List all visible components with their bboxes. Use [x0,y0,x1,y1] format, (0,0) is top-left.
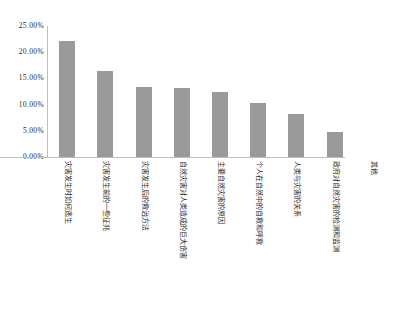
y-axis-tick-label: 15.00% [8,75,44,83]
x-axis-tick-label: 灾害发生时如何逃生 [64,161,71,224]
x-axis-tick-label: 灾害发生前的一些征兆 [102,161,109,231]
bar [327,132,343,157]
x-axis-tick: 人类与灾害的关系 [277,159,315,311]
bar [59,41,75,157]
x-axis-line [0,157,345,158]
bar [250,103,266,157]
x-axis-tick: 灾害发生时如何逃生 [48,159,86,311]
bar [174,88,190,157]
x-axis-tick-label: 个人在自然中的自救和呼救 [255,161,262,245]
x-axis-tick: 灾害发生前的一些征兆 [86,159,124,311]
y-axis-tick-label: 5.00% [8,127,44,135]
bar [97,71,113,157]
bar-chart: 25.00%20.00%15.00%10.00%5.00%0.00% 灾害发生时… [0,0,400,313]
x-axis-tick-label: 自然灾害对人类造成的巨大伤害 [178,161,185,259]
x-axis: 灾害发生时如何逃生灾害发生前的一些征兆灾害发生后的救治方法自然灾害对人类造成的巨… [48,159,392,313]
bar [288,114,304,157]
x-axis-tick-label: 其他 [369,161,376,175]
x-axis-tick: 自然灾害对人类造成的巨大伤害 [163,159,201,311]
x-axis-tick: 主要自然灾害的原因 [201,159,239,311]
x-axis-tick-label: 主要自然灾害的原因 [216,161,223,224]
x-axis-tick: 其他 [354,159,392,311]
x-axis-tick-label: 灾害发生后的救治方法 [140,161,147,231]
x-axis-tick-label: 人类与灾害的关系 [293,161,300,217]
bar [212,92,228,157]
plot-area [48,26,392,157]
y-axis-tick-label: 20.00% [8,48,44,56]
y-axis-tick-label: 10.00% [8,101,44,109]
x-axis-tick-label: 政府对自然灾害的检测和监测 [331,161,338,252]
x-axis-tick: 政府对自然灾害的检测和监测 [316,159,354,311]
x-axis-tick: 灾害发生后的救治方法 [124,159,162,311]
bar [136,87,152,157]
x-axis-tick: 个人在自然中的自救和呼救 [239,159,277,311]
y-axis-tick-label: 25.00% [8,22,44,30]
